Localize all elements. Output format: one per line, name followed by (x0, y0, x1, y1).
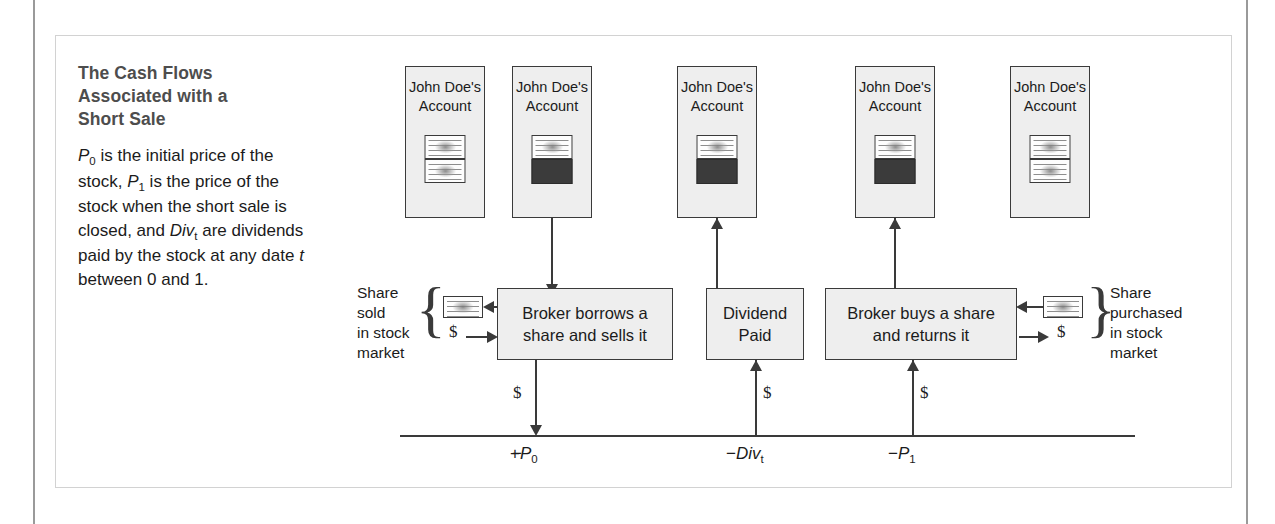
connector-account2-to-broker1 (551, 218, 553, 288)
arrowhead-right-cash-in (487, 331, 498, 343)
account-box-3: John Doe's Account (677, 66, 757, 218)
account-box-2: John Doe's Account (512, 66, 592, 218)
black-block-icon (875, 159, 916, 184)
timeline-value-div: −Divt (726, 444, 764, 464)
broker-borrow-box: Broker borrows a share and sells it (497, 288, 673, 360)
stock-certificate-icon (697, 135, 738, 159)
cashflow-stem-div (755, 360, 757, 436)
dividend-paid-box: Dividend Paid (706, 288, 804, 360)
arrowhead-left-share-purchased (1016, 301, 1027, 313)
stock-certificate-icon (425, 135, 466, 159)
black-block-icon (532, 159, 573, 184)
certificate-stack (875, 135, 916, 184)
stock-certificate-icon (1030, 159, 1071, 183)
timeline-value-p0: +P0 (510, 444, 538, 464)
arrowhead-right-cash-out (1038, 331, 1049, 343)
timeline-axis (400, 435, 1135, 437)
broker-buy-box: Broker buys a share and returns it (825, 288, 1017, 360)
page-rule-right (1246, 0, 1248, 524)
caption-block: The Cash Flows Associated with a Short S… (78, 62, 318, 291)
share-sold-label: Share sold in stock market (357, 283, 419, 363)
account-label: John Doe's Account (1011, 78, 1089, 115)
account-label: John Doe's Account (856, 78, 934, 115)
caption-body: P0 is the initial price of the stock, P1… (78, 144, 318, 291)
stock-certificate-icon (875, 135, 916, 159)
black-block-icon (697, 159, 738, 184)
certificate-stack (532, 135, 573, 184)
account-label: John Doe's Account (406, 78, 484, 115)
arrowhead-up-account4 (889, 218, 901, 229)
cashflow-stem-p0 (535, 360, 537, 430)
exhibit-root: The Cash Flows Associated with a Short S… (0, 0, 1275, 524)
stock-certificate-icon-right-market (1043, 296, 1083, 318)
arrowhead-up-p1 (907, 360, 919, 371)
page-rule-left (33, 0, 35, 524)
stock-certificate-icon (1030, 135, 1071, 159)
stock-certificate-icon (425, 159, 466, 183)
stock-certificate-icon-left-market (443, 296, 483, 318)
arrowhead-up-div (750, 360, 762, 371)
certificate-stack (697, 135, 738, 184)
dollar-left-market: $ (449, 322, 458, 342)
account-label: John Doe's Account (513, 78, 591, 115)
account-label: John Doe's Account (678, 78, 756, 115)
dollar-cashflow-div: $ (763, 383, 772, 403)
certificate-stack (425, 135, 466, 183)
left-brace-icon: { (416, 278, 446, 340)
certificate-stack (1030, 135, 1071, 183)
account-box-1: John Doe's Account (405, 66, 485, 218)
arrowhead-up-account3 (711, 218, 723, 229)
account-box-5: John Doe's Account (1010, 66, 1090, 218)
caption-title: The Cash Flows Associated with a Short S… (78, 62, 318, 131)
dollar-cashflow-p1: $ (920, 383, 929, 403)
cashflow-stem-p1 (912, 360, 914, 436)
timeline-value-p1: −P1 (888, 444, 916, 464)
share-purchased-label: Share purchased in stock market (1110, 283, 1210, 363)
stock-certificate-icon (532, 135, 573, 159)
account-box-4: John Doe's Account (855, 66, 935, 218)
dollar-right-market: $ (1057, 322, 1066, 342)
arrowhead-left-share-sold (483, 301, 494, 313)
dollar-cashflow-p0: $ (513, 383, 522, 403)
